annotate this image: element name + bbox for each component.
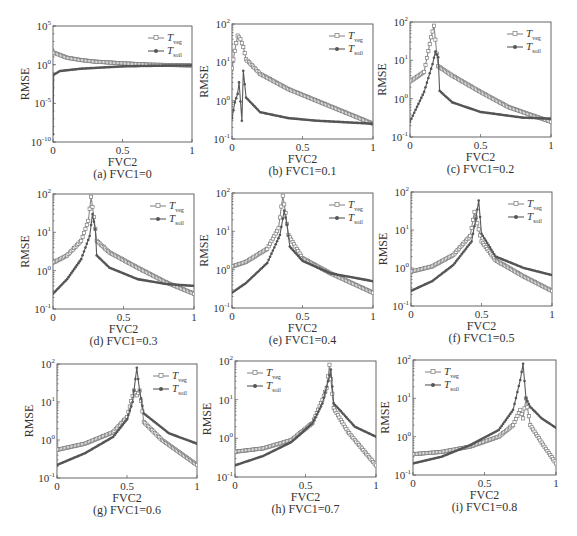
x-tick-label: 1	[191, 311, 197, 323]
legend: TvegTsoil	[247, 366, 281, 393]
x-tick-label: 0	[232, 479, 238, 491]
legend: TvegTsoil	[329, 198, 363, 225]
legend-label-soil: Tsoil	[169, 212, 184, 226]
y-axis-label: RMSE	[197, 234, 211, 267]
y-tick-label: 101	[394, 53, 409, 66]
legend-label-veg: Tveg	[348, 198, 363, 212]
legend: TvegTsoil	[150, 199, 184, 226]
series-line-soil	[53, 214, 194, 294]
x-tick-label: 1	[553, 477, 559, 489]
y-axis-label: RMSE	[200, 403, 214, 436]
y-tick-label: 102	[395, 185, 410, 198]
subplot-caption: (e) FVC1=0.4	[269, 333, 336, 347]
y-tick-label: 102	[394, 15, 409, 28]
legend: TvegTsoil	[508, 197, 542, 224]
y-tick-label: 10-1	[38, 471, 55, 484]
x-tick-label: 0	[50, 144, 56, 156]
legend-label-veg: Tveg	[172, 369, 187, 383]
y-tick-label: 10-10	[31, 135, 52, 148]
x-tick-label: 0	[54, 480, 60, 492]
y-tick-label: 100	[219, 431, 234, 444]
legend-label-soil: Tsoil	[266, 379, 281, 393]
legend: TvegTsoil	[148, 31, 182, 58]
y-tick-label: 101	[216, 55, 231, 68]
legend: TvegTsoil	[329, 29, 363, 56]
series-line-soil	[413, 364, 556, 464]
subplot-caption: (i) FVC1=0.8	[452, 500, 517, 514]
y-tick-label: 10-1	[392, 299, 409, 312]
y-axis-label: RMSE	[197, 65, 211, 98]
legend-label-soil: Tsoil	[348, 42, 363, 56]
y-tick-label: 100	[397, 430, 412, 443]
x-tick-label: 1	[370, 310, 376, 322]
legend: TvegTsoil	[425, 365, 459, 392]
subplot-caption: (g) FVC1=0.6	[93, 503, 161, 517]
y-tick-label: 10-1	[213, 301, 230, 314]
x-tick-label: 0	[229, 141, 235, 153]
x-tick-label: 0	[407, 139, 413, 151]
y-tick-label: 100	[394, 92, 409, 105]
y-axis-label: RMSE	[378, 401, 392, 434]
x-tick-label: 1	[373, 479, 379, 491]
y-tick-label: 101	[395, 223, 410, 236]
subplot-e: 10210110010-100.51FVC2RMSE(e) FVC1=0.4Tv…	[197, 186, 376, 347]
legend: TvegTsoil	[153, 369, 187, 396]
figure-grid: 10510010-510-1000.51FVC2RMSE(a) FVC1=0Tv…	[0, 0, 577, 536]
subplot-caption: (d) FVC1=0.3	[89, 334, 157, 348]
y-tick-label: 102	[37, 187, 52, 200]
legend-label-veg: Tveg	[348, 29, 363, 43]
y-tick-label: 10-1	[34, 302, 51, 315]
x-tick-label: 1	[370, 141, 376, 153]
subplot-f: 10210110010-100.51FVC2RMSE(f) FVC1=0.5Tv…	[376, 185, 555, 345]
legend-label-veg: Tveg	[167, 31, 182, 45]
x-tick-label: 0	[50, 311, 56, 323]
y-tick-label: 101	[219, 393, 234, 406]
legend-label-soil: Tsoil	[167, 44, 182, 58]
legend-label-veg: Tveg	[444, 365, 459, 379]
y-tick-label: 105	[37, 19, 52, 32]
x-tick-label: 0	[410, 477, 416, 489]
subplot-caption: (a) FVC1=0	[93, 167, 151, 181]
x-tick-label: 1	[548, 139, 554, 151]
y-tick-label: 100	[37, 264, 52, 277]
y-tick-label: 100	[37, 58, 52, 71]
legend-label-veg: Tveg	[266, 366, 281, 380]
series-line-soil	[53, 65, 192, 134]
y-tick-label: 100	[41, 433, 56, 446]
y-tick-label: 102	[397, 353, 412, 366]
y-axis-label: RMSE	[375, 63, 389, 96]
x-tick-label: 1	[194, 480, 200, 492]
y-tick-label: 102	[219, 354, 234, 367]
y-axis-label: RMSE	[18, 68, 32, 101]
y-tick-label: 100	[216, 94, 231, 107]
subplot-g: 10210110010-100.51FVC2RMSE(g) FVC1=0.6Tv…	[22, 357, 200, 517]
y-axis-label: RMSE	[22, 405, 36, 438]
y-tick-label: 102	[41, 357, 56, 370]
subplot-d: 10210110010-100.51FVC2RMSE(d) FVC1=0.3Tv…	[18, 187, 197, 348]
x-tick-label: 0	[229, 310, 235, 322]
subplot-caption: (h) FVC1=0.7	[271, 502, 339, 516]
y-tick-label: 101	[397, 391, 412, 404]
y-tick-label: 10-1	[216, 470, 233, 483]
subplot-i: 10210110010-100.51FVC2RMSE(i) FVC1=0.8Tv…	[378, 353, 559, 514]
legend-label-soil: Tsoil	[444, 378, 459, 392]
legend-label-veg: Tveg	[169, 199, 184, 213]
y-tick-label: 10-1	[213, 132, 230, 145]
x-tick-label: 1	[549, 308, 555, 320]
legend-label-veg: Tveg	[527, 197, 542, 211]
subplot-caption: (c) FVC1=0.2	[447, 162, 514, 176]
y-tick-label: 102	[216, 17, 231, 30]
y-axis-label: RMSE	[18, 235, 32, 268]
legend: TvegTsoil	[507, 27, 541, 54]
legend-label-soil: Tsoil	[172, 382, 187, 396]
subplot-c: 10210110010-100.51FVC2RMSE(c) FVC1=0.2Tv…	[375, 15, 554, 176]
legend-label-veg: Tveg	[526, 27, 541, 41]
series-line-veg	[57, 391, 197, 465]
subplot-caption: (f) FVC1=0.5	[448, 331, 514, 345]
y-tick-label: 101	[216, 224, 231, 237]
y-tick-label: 10-1	[391, 130, 408, 143]
y-tick-label: 102	[216, 186, 231, 199]
y-tick-label: 101	[37, 225, 52, 238]
subplot-a: 10510010-510-1000.51FVC2RMSE(a) FVC1=0Tv…	[18, 19, 195, 181]
legend-label-soil: Tsoil	[348, 211, 363, 225]
